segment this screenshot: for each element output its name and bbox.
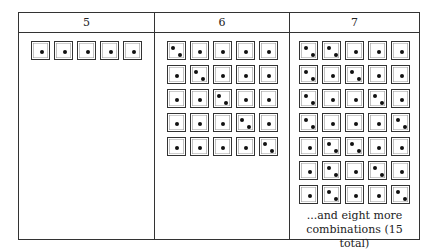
die-face-two-icon <box>236 113 255 132</box>
pip-dot <box>327 190 331 194</box>
die-face-two-icon <box>259 137 278 156</box>
pip-dot <box>175 122 179 126</box>
pip-dot <box>267 50 271 54</box>
column-sum-7: 7 ...and eight morecombinations (15 tota… <box>289 13 419 239</box>
pip-dot <box>201 77 205 81</box>
dice-row <box>290 89 419 109</box>
die-face-two-icon <box>345 137 364 156</box>
pip-dot <box>304 94 308 98</box>
pip-dot <box>357 77 361 81</box>
die-face-two-icon <box>299 41 318 60</box>
pip-dot <box>334 53 338 57</box>
die-face-one-icon <box>345 41 364 60</box>
pip-dot <box>175 146 179 150</box>
pip-dot <box>311 53 315 57</box>
pip-dot <box>244 74 248 78</box>
pip-dot <box>247 125 251 129</box>
die-face-two-icon <box>167 41 186 60</box>
pip-dot <box>380 173 384 177</box>
dice-sum-table: 5 6 7 ...and eight morecombinations (15 … <box>18 12 420 240</box>
pip-dot <box>327 142 331 146</box>
column-header: 6 <box>155 13 289 33</box>
die-face-one-icon <box>213 113 232 132</box>
pip-dot <box>311 101 315 105</box>
die-face-one-icon <box>167 113 186 132</box>
pip-dot <box>373 166 377 170</box>
die-face-two-icon <box>368 161 387 180</box>
die-face-one-icon <box>54 41 73 60</box>
pip-dot <box>354 194 358 198</box>
die-face-one-icon <box>345 113 364 132</box>
die-face-one-icon <box>345 185 364 204</box>
pip-dot <box>109 50 113 54</box>
pip-dot <box>171 46 175 50</box>
pip-dot <box>267 98 271 102</box>
die-face-one-icon <box>213 41 232 60</box>
column-sum-6: 6 <box>154 13 289 239</box>
die-face-one-icon <box>368 137 387 156</box>
die-face-one-icon <box>391 89 410 108</box>
die-face-one-icon <box>299 161 318 180</box>
pip-dot <box>198 146 202 150</box>
dice-row <box>290 185 419 205</box>
pip-dot <box>240 118 244 122</box>
pip-dot <box>175 74 179 78</box>
pip-dot <box>86 50 90 54</box>
die-face-one-icon <box>322 89 341 108</box>
pip-dot <box>357 149 361 153</box>
dice-row <box>155 137 289 157</box>
pip-dot <box>221 122 225 126</box>
die-face-one-icon <box>368 65 387 84</box>
dice-grid <box>155 41 289 161</box>
die-face-one-icon <box>391 65 410 84</box>
die-face-one-icon <box>167 137 186 156</box>
pip-dot <box>198 122 202 126</box>
die-face-two-icon <box>322 137 341 156</box>
pip-dot <box>354 122 358 126</box>
pip-dot <box>327 46 331 50</box>
die-face-one-icon <box>167 89 186 108</box>
pip-dot <box>244 50 248 54</box>
die-face-two-icon <box>345 65 364 84</box>
pip-dot <box>221 146 225 150</box>
pip-dot <box>373 94 377 98</box>
pip-dot <box>311 77 315 81</box>
die-face-two-icon <box>213 89 232 108</box>
die-face-two-icon <box>322 41 341 60</box>
dice-row <box>155 89 289 109</box>
die-face-two-icon <box>299 89 318 108</box>
dice-row <box>290 65 419 85</box>
column-header: 7 <box>290 13 419 33</box>
pip-dot <box>377 122 381 126</box>
die-face-two-icon <box>190 65 209 84</box>
die-face-one-icon <box>31 41 50 60</box>
pip-dot <box>403 125 407 129</box>
pip-dot <box>178 53 182 57</box>
die-face-one-icon <box>100 41 119 60</box>
pip-dot <box>308 146 312 150</box>
pip-dot <box>377 50 381 54</box>
pip-dot <box>263 142 267 146</box>
pip-dot <box>400 50 404 54</box>
pip-dot <box>354 98 358 102</box>
pip-dot <box>311 125 315 129</box>
pip-dot <box>244 98 248 102</box>
die-face-one-icon <box>391 41 410 60</box>
die-face-two-icon <box>391 113 410 132</box>
pip-dot <box>308 170 312 174</box>
dice-grid <box>19 41 154 65</box>
pip-dot <box>334 149 338 153</box>
column-header: 5 <box>19 13 154 33</box>
dice-row <box>155 41 289 61</box>
more-combinations-note: ...and eight morecombinations (15 total) <box>290 209 419 251</box>
pip-dot <box>334 197 338 201</box>
pip-dot <box>354 50 358 54</box>
die-face-one-icon <box>299 137 318 156</box>
pip-dot <box>267 74 271 78</box>
note-line: combinations (15 total) <box>290 223 419 251</box>
die-face-one-icon <box>368 185 387 204</box>
column-sum-5: 5 <box>19 13 154 239</box>
die-face-two-icon <box>299 113 318 132</box>
pip-dot <box>267 122 271 126</box>
dice-row <box>155 113 289 133</box>
